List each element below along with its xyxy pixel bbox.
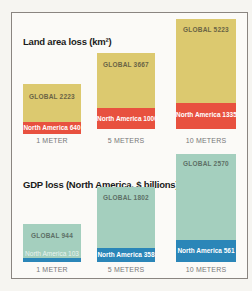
land-global-value: GLOBAL 3667 (97, 61, 155, 68)
land-na-value: North America 1335 (176, 103, 236, 129)
gdp-global-value: GLOBAL 1802 (97, 194, 155, 201)
land-bar-5m: GLOBAL 3667 North America 1000 (97, 53, 155, 129)
land-bar-1m: GLOBAL 2223 North America 640 (23, 84, 81, 134)
land-x-label: 5 METERS (97, 137, 155, 144)
land-bar-10m: GLOBAL 5223 North America 1335 (176, 19, 236, 129)
gdp-global-value: GLOBAL 2570 (176, 160, 236, 167)
gdp-na-value: North America 358 (97, 248, 155, 262)
gdp-na-value: North America 561 (176, 240, 236, 262)
land-chart-title: Land area loss (km²) (23, 36, 111, 47)
land-global-value: GLOBAL 5223 (176, 26, 236, 33)
gdp-bar-1m: GLOBAL 944 North America 103 (23, 224, 81, 262)
land-global-value: GLOBAL 2223 (23, 93, 81, 100)
gdp-global-value: GLOBAL 944 (23, 232, 81, 239)
gdp-na-value: North America 103 (23, 249, 81, 262)
gdp-bar-10m: GLOBAL 2570 North America 561 (176, 154, 236, 262)
land-x-label: 10 METERS (176, 137, 236, 144)
land-x-label: 1 METER (23, 137, 81, 144)
land-na-value: North America 1000 (97, 108, 155, 129)
gdp-x-label: 10 METERS (176, 266, 236, 273)
gdp-bar-5m: GLOBAL 1802 North America 358 (97, 187, 155, 262)
gdp-x-label: 1 METER (23, 266, 81, 273)
gdp-x-label: 5 METERS (97, 266, 155, 273)
land-na-value: North America 640 (23, 122, 81, 134)
